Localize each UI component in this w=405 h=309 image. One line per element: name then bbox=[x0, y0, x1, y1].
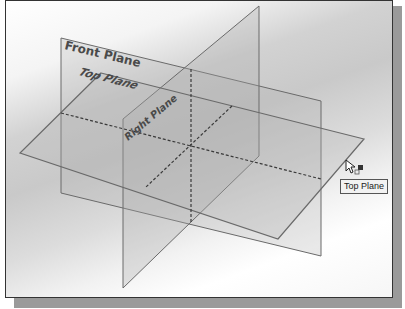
graphics-viewport[interactable]: Front Plane Top Plane Right Plane Top Pl… bbox=[5, 0, 393, 298]
plane-glyph-icon bbox=[358, 165, 363, 170]
plane-scene: Front Plane Top Plane Right Plane bbox=[6, 1, 393, 298]
arrow-cursor-icon bbox=[345, 159, 367, 181]
hover-tooltip: Top Plane bbox=[340, 179, 388, 194]
